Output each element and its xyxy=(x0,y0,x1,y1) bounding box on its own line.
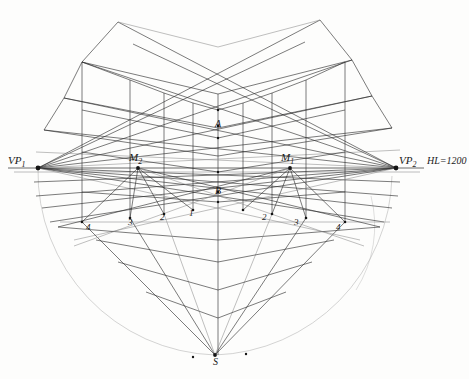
lower-lines-from-vp1 xyxy=(38,168,400,240)
measuring-fan-m2 xyxy=(82,168,193,222)
label-m2: M2 xyxy=(129,151,142,166)
label-vp2: VP2 xyxy=(399,154,416,169)
label-station-point: S xyxy=(213,356,218,367)
label-horizon-height: HL=1200 xyxy=(427,155,467,166)
tick-label-center-1: 1 xyxy=(189,208,194,218)
ground-plane-grid xyxy=(82,214,345,355)
label-point-b: B xyxy=(215,185,221,196)
tick-label-left-4: 4 xyxy=(86,222,91,232)
perspective-drawing-canvas: .ln{stroke:#2b2b2b;stroke-width:.62;fill… xyxy=(0,0,469,379)
tick-label-left-3: 3 xyxy=(128,217,133,227)
tick-label-right-2: 2 xyxy=(262,212,267,222)
tick-label-right-4: 4 xyxy=(336,222,341,232)
node-dots xyxy=(36,109,399,358)
construction-lines-svg: .ln{stroke:#2b2b2b;stroke-width:.62;fill… xyxy=(0,0,469,379)
label-m1: M1 xyxy=(281,151,294,166)
tick-label-left-2: 2 xyxy=(160,212,165,222)
tick-label-right-3: 3 xyxy=(294,217,299,227)
label-vp1: VP1 xyxy=(8,154,25,169)
label-point-a: A xyxy=(215,118,221,129)
ground-diagonals xyxy=(58,168,380,246)
roof-lines-to-vp2 xyxy=(36,22,396,168)
